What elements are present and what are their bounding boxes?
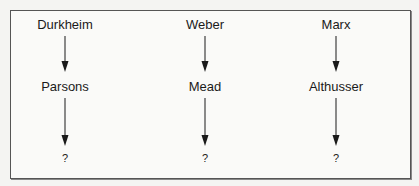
arrow-down-icon [202,98,209,146]
arrow-down-icon [333,98,340,146]
arrows-layer [0,0,419,186]
arrow-down-icon [62,98,69,146]
arrow-down-icon [202,36,209,72]
arrow-down-icon [333,36,340,72]
arrow-down-icon [62,36,69,72]
